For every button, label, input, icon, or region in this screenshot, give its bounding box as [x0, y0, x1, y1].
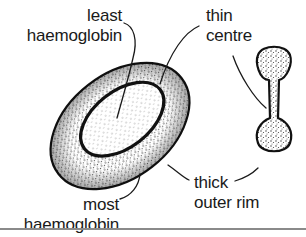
label-least-line1: least — [4, 6, 122, 26]
rbc-cross-section — [257, 47, 292, 152]
label-thick-line1: thick — [194, 173, 259, 193]
rbc-surface-view — [27, 37, 214, 215]
label-thin-centre: thin centre — [206, 6, 252, 46]
label-least-line2: haemoglobin — [4, 26, 122, 46]
label-thick-line2: outer rim — [194, 193, 259, 213]
bottom-divider — [0, 228, 306, 230]
label-thin-line2: centre — [206, 26, 252, 46]
label-least-haemoglobin: least haemoglobin — [4, 6, 122, 46]
label-most-line1: most — [4, 195, 119, 215]
leader-thick-disc — [168, 165, 189, 180]
label-most-line2: haemoglobin — [4, 215, 119, 235]
label-thick-outer-rim: thick outer rim — [194, 173, 259, 213]
diagram-stage: least haemoglobin thin centre most haemo… — [0, 0, 306, 237]
label-thin-line1: thin — [206, 6, 252, 26]
